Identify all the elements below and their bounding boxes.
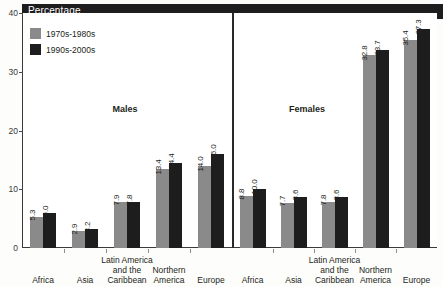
bar: 16.0 — [211, 154, 224, 248]
bar: 5.3 — [30, 217, 43, 248]
x-axis-category-label: Europe — [384, 275, 443, 285]
bar-value-label: 37.3 — [414, 19, 423, 34]
bar-value-label: 14.0 — [196, 156, 205, 171]
x-axis-tick-mark — [106, 249, 107, 253]
bar-value-label: 6.0 — [41, 205, 50, 216]
panel-title-females: Females — [277, 104, 337, 114]
bar: 10.0 — [253, 189, 266, 248]
legend-item-0: 1970s-1980s — [30, 28, 95, 39]
y-axis-tick-mark — [19, 131, 23, 132]
y-axis-tick-mark — [19, 189, 23, 190]
bar: 8.8 — [240, 196, 253, 248]
bar-value-label: 8.6 — [291, 190, 300, 201]
bar: 13.4 — [156, 169, 169, 248]
bar-value-label: 7.7 — [278, 195, 287, 206]
bar: 2.9 — [72, 231, 85, 248]
bar-value-label: 8.8 — [237, 189, 246, 200]
legend-item-1: 1990s-2000s — [30, 44, 95, 55]
bar: 8.6 — [294, 197, 307, 248]
y-axis-tick-label: 30 — [0, 67, 18, 77]
bar-value-label: 7.8 — [319, 195, 328, 206]
y-axis-tick-mark — [19, 13, 23, 14]
y-axis-tick-label: 10 — [0, 184, 18, 194]
bar-value-label: 35.4 — [401, 30, 410, 45]
bar-value-label: 8.6 — [332, 190, 341, 201]
legend-swatch-icon — [30, 28, 41, 39]
y-axis-tick-label: 40 — [0, 8, 18, 18]
bar-value-label: 14.4 — [167, 154, 176, 169]
bar-value-label: 16.0 — [209, 144, 218, 159]
bar-value-label: 32.8 — [360, 46, 369, 61]
panel-title-males: Males — [95, 104, 155, 114]
bar: 14.0 — [198, 166, 211, 248]
legend-label-0: 1970s-1980s — [46, 29, 95, 39]
bar: 7.8 — [127, 202, 140, 248]
bar: 35.4 — [404, 40, 417, 248]
y-axis-tick-mark — [19, 72, 23, 73]
legend-swatch-icon — [30, 44, 41, 55]
x-axis-tick-mark — [64, 249, 65, 253]
bar: 7.7 — [281, 203, 294, 248]
bar: 3.2 — [85, 229, 98, 248]
bar-value-label: 7.9 — [112, 194, 121, 205]
bar-value-label: 10.0 — [250, 180, 259, 195]
bar-chart: Percentage 010203040 Males Females 1970s… — [0, 0, 443, 287]
bar: 6.0 — [43, 213, 56, 248]
legend: 1970s-1980s 1990s-2000s — [30, 28, 95, 60]
x-axis-tick-mark — [314, 249, 315, 253]
x-axis-tick-mark — [273, 249, 274, 253]
bar: 37.3 — [417, 29, 430, 248]
bar: 8.6 — [335, 197, 348, 248]
panel-divider — [232, 13, 234, 248]
x-axis-tick-mark — [148, 249, 149, 253]
x-axis-tick-mark — [355, 249, 356, 253]
bar-value-label: 13.4 — [154, 160, 163, 175]
bar: 33.7 — [376, 50, 389, 248]
bar-value-label: 33.7 — [373, 40, 382, 55]
bar-value-label: 2.9 — [70, 224, 79, 235]
bar: 14.4 — [169, 163, 182, 248]
y-axis-tick-label: 0 — [0, 243, 18, 253]
bar-value-label: 5.3 — [28, 209, 37, 220]
bar: 7.9 — [114, 202, 127, 248]
bar: 32.8 — [363, 55, 376, 248]
bar-value-label: 3.2 — [83, 222, 92, 233]
x-axis-tick-mark — [190, 249, 191, 253]
x-axis-tick-mark — [396, 249, 397, 253]
y-axis-tick-label: 20 — [0, 126, 18, 136]
bar: 7.8 — [322, 202, 335, 248]
legend-label-1: 1990s-2000s — [46, 45, 95, 55]
bar-value-label: 7.8 — [125, 195, 134, 206]
